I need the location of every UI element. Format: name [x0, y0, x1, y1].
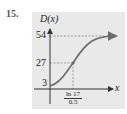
- y-tick-3: 3: [42, 78, 47, 88]
- x-tick-denominator: 0.5: [64, 99, 82, 106]
- inflection-point: [71, 61, 74, 64]
- y-axis-label: D(x): [40, 14, 58, 24]
- y-tick-27: 27: [36, 58, 46, 68]
- x-tick-fraction: ln 17 0.5: [64, 91, 82, 106]
- y-tick-54: 54: [36, 30, 46, 40]
- x-axis-label: x: [115, 83, 119, 93]
- logistic-curve: [50, 36, 116, 86]
